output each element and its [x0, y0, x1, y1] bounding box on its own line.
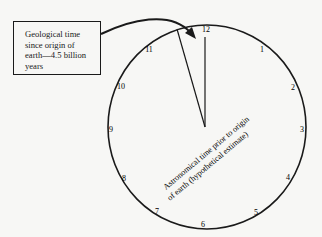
- numeral-2: 2: [291, 83, 295, 92]
- callout-text: Geological time since origin of earth—4.…: [25, 29, 100, 71]
- numeral-12: 12: [202, 25, 210, 34]
- clock-hand-geological: [177, 29, 205, 127]
- clock-face: [108, 25, 306, 229]
- numeral-10: 10: [117, 82, 125, 91]
- numeral-8: 8: [122, 174, 126, 183]
- callout-arrow: [101, 19, 190, 34]
- numeral-1: 1: [260, 45, 264, 54]
- numeral-6: 6: [201, 220, 205, 229]
- numeral-4: 4: [286, 173, 290, 182]
- numeral-3: 3: [300, 125, 304, 134]
- numeral-7: 7: [155, 207, 159, 216]
- geological-time-callout: Geological time since origin of earth—4.…: [13, 21, 101, 75]
- astronomical-time-label-line2: of earth (hypothetical estimate): [166, 130, 251, 203]
- numeral-5: 5: [254, 208, 258, 217]
- numeral-11: 11: [145, 45, 153, 54]
- astronomical-time-label-line1: Astronomical time prior to origin: [162, 114, 251, 191]
- numeral-9: 9: [109, 125, 113, 134]
